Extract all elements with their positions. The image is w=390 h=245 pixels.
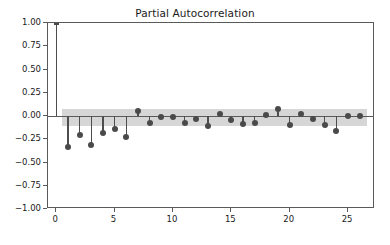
y-tick-label: 0.25 xyxy=(22,87,41,97)
stem-marker xyxy=(123,134,129,140)
confidence-band xyxy=(62,109,367,126)
stem-marker xyxy=(310,116,316,122)
stem-marker xyxy=(322,122,328,128)
stem-line xyxy=(67,116,68,147)
stem-marker xyxy=(54,23,59,25)
x-tick-mark xyxy=(172,208,173,212)
stem-marker xyxy=(112,126,118,132)
y-tick-label: 1.00 xyxy=(22,17,41,27)
y-tick-label: 0.75 xyxy=(22,40,41,50)
x-tick-mark xyxy=(55,208,56,212)
x-tick-label: 5 xyxy=(111,214,116,224)
x-tick-mark xyxy=(230,208,231,212)
stem-marker xyxy=(333,128,339,134)
y-tick-label: −0.50 xyxy=(15,157,41,167)
stem-marker xyxy=(240,121,246,127)
x-tick-mark xyxy=(289,208,290,212)
page-title: Partial Autocorrelation xyxy=(0,7,390,19)
stem-line xyxy=(91,116,92,145)
stem-marker xyxy=(217,111,223,117)
stem-marker xyxy=(170,114,176,120)
stem-marker xyxy=(205,123,211,129)
stem-marker xyxy=(77,132,83,138)
x-tick-label: 0 xyxy=(52,214,57,224)
x-tick-mark xyxy=(114,208,115,212)
pacf-figure: Partial Autocorrelation 1.000.750.500.25… xyxy=(0,0,390,245)
stem-marker xyxy=(100,130,106,136)
y-tick-label: −0.25 xyxy=(15,133,41,143)
y-tick-label: 0.00 xyxy=(22,110,41,120)
stem-line xyxy=(56,23,57,116)
x-tick-label: 25 xyxy=(342,214,353,224)
stem-marker xyxy=(65,144,71,150)
x-tick-label: 20 xyxy=(283,214,294,224)
x-tick-mark xyxy=(347,208,348,212)
x-tick-label: 10 xyxy=(167,214,178,224)
plot-area xyxy=(47,22,374,208)
y-tick-label: −0.75 xyxy=(15,180,41,190)
y-tick-mark xyxy=(43,208,47,209)
x-tick-label: 15 xyxy=(225,214,236,224)
stem-marker xyxy=(88,142,94,148)
y-tick-label: −1.00 xyxy=(15,203,41,213)
stem-marker xyxy=(287,122,293,128)
y-tick-label: 0.50 xyxy=(22,64,41,74)
